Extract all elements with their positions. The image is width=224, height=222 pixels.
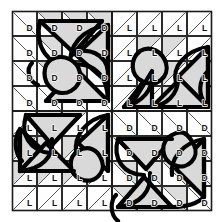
diagram-canvas: DDDDLLLLDDDDLLLLDDDDLLLLDDDDLLLLLLLLDDDD…	[0, 0, 224, 222]
quilt-grid: DDDDLLLLDDDDLLLLDDDDLLLLDDDDLLLLLLLLDDDD…	[12, 11, 212, 211]
cell-label: D	[101, 98, 107, 108]
cell-label: L	[77, 123, 82, 133]
cell-label: D	[51, 73, 57, 83]
cell-label: L	[177, 73, 182, 83]
cell-label: L	[102, 198, 107, 208]
cell-label: D	[26, 48, 32, 58]
cell-label: D	[151, 148, 157, 158]
cell-label: D	[101, 48, 107, 58]
cell-label: L	[202, 98, 207, 108]
cell-label: D	[76, 23, 82, 33]
cell-label: D	[201, 148, 207, 158]
cell-label: L	[27, 148, 32, 158]
cell-label: L	[102, 123, 107, 133]
cell-label: D	[51, 48, 57, 58]
cell-label: D	[76, 98, 82, 108]
cell-label: D	[126, 148, 132, 158]
label-layer: DDDDLLLLDDDDLLLLDDDDLLLLDDDDLLLLLLLLDDDD…	[12, 11, 212, 211]
cell-label: L	[127, 23, 132, 33]
cell-label: L	[152, 48, 157, 58]
cell-label: D	[76, 73, 82, 83]
cell-label: L	[127, 73, 132, 83]
cell-label: L	[202, 23, 207, 33]
cell-label: L	[127, 98, 132, 108]
cell-label: D	[26, 98, 32, 108]
cell-label: D	[151, 123, 157, 133]
cell-label: L	[102, 148, 107, 158]
cell-label: L	[52, 148, 57, 158]
cell-label: D	[176, 123, 182, 133]
cell-label: L	[102, 173, 107, 183]
cell-label: D	[51, 23, 57, 33]
cell-label: L	[202, 73, 207, 83]
cell-label: L	[52, 123, 57, 133]
cell-label: L	[52, 198, 57, 208]
cell-label: L	[152, 73, 157, 83]
cell-label: D	[26, 73, 32, 83]
cell-label: D	[176, 173, 182, 183]
cell-label: L	[77, 148, 82, 158]
cell-label: L	[52, 173, 57, 183]
cell-label: D	[126, 173, 132, 183]
cell-label: D	[176, 198, 182, 208]
cell-label: D	[201, 198, 207, 208]
cell-label: L	[177, 48, 182, 58]
cell-label: D	[151, 173, 157, 183]
cell-label: D	[126, 123, 132, 133]
cell-label: L	[152, 98, 157, 108]
cell-label: L	[27, 123, 32, 133]
cell-label: D	[51, 98, 57, 108]
cell-label: L	[177, 23, 182, 33]
cell-label: L	[77, 173, 82, 183]
cell-label: D	[176, 148, 182, 158]
cell-label: L	[152, 23, 157, 33]
cell-label: D	[201, 173, 207, 183]
cell-label: L	[177, 98, 182, 108]
cell-label: D	[26, 23, 32, 33]
cell-label: L	[27, 198, 32, 208]
cell-label: L	[127, 48, 132, 58]
cell-label: D	[101, 73, 107, 83]
cell-label: D	[151, 198, 157, 208]
cell-label: L	[27, 173, 32, 183]
cell-label: L	[202, 48, 207, 58]
cell-label: L	[77, 198, 82, 208]
cell-label: D	[76, 48, 82, 58]
cell-label: D	[201, 123, 207, 133]
cell-label: D	[126, 198, 132, 208]
cell-label: D	[101, 23, 107, 33]
